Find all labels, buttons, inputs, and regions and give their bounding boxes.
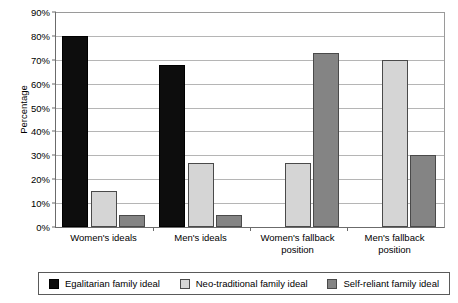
y-tick-mark (52, 107, 56, 108)
bar (188, 163, 214, 228)
y-tick-mark (52, 155, 56, 156)
x-axis-label-line: position (346, 244, 443, 256)
y-tick-mark (52, 12, 56, 13)
legend-swatch-icon (49, 279, 59, 289)
y-tick-mark (52, 59, 56, 60)
y-tick-label: 30% (8, 150, 50, 161)
bar (410, 155, 436, 227)
x-axis-label: Men's fallbackposition (346, 232, 443, 255)
x-axis-label-line: position (249, 244, 346, 256)
y-tick-label: 70% (8, 54, 50, 65)
y-tick-label: 10% (8, 198, 50, 209)
plot-inner: 90%80%70%60%50%40%30%20%10%0% (56, 12, 444, 227)
legend-item: Egalitarian family ideal (49, 278, 160, 289)
legend-label: Self-reliant family ideal (343, 278, 439, 289)
x-tick-mark (250, 227, 251, 231)
bar (62, 36, 88, 227)
bar (159, 65, 185, 227)
x-tick-mark (347, 227, 348, 231)
chart-legend: Egalitarian family idealNeo-traditional … (38, 272, 450, 295)
y-tick-label: 80% (8, 30, 50, 41)
legend-swatch-icon (180, 279, 190, 289)
y-tick-label: 50% (8, 102, 50, 113)
x-axis-label-line: Women's fallback (249, 232, 346, 244)
x-axis-label: Men's ideals (152, 232, 249, 244)
gridline (56, 36, 444, 37)
y-tick-mark (52, 203, 56, 204)
y-tick-mark (52, 83, 56, 84)
legend-item: Self-reliant family ideal (327, 278, 439, 289)
bar (313, 53, 339, 227)
gridline (56, 12, 444, 13)
legend-swatch-icon (327, 279, 337, 289)
y-tick-mark (52, 179, 56, 180)
bar (216, 215, 242, 227)
y-tick-label: 60% (8, 78, 50, 89)
x-axis-label-line: Men's fallback (346, 232, 443, 244)
bar (91, 191, 117, 227)
bar (382, 60, 408, 227)
x-axis-label: Women's ideals (55, 232, 152, 244)
legend-label: Egalitarian family ideal (65, 278, 160, 289)
y-tick-label: 0% (8, 222, 50, 233)
bar (285, 163, 311, 228)
bar (119, 215, 145, 227)
y-tick-label: 90% (8, 7, 50, 18)
x-axis-label-line: Women's ideals (55, 232, 152, 244)
legend-label: Neo-traditional family ideal (196, 278, 308, 289)
x-axis-label: Women's fallbackposition (249, 232, 346, 255)
y-tick-mark (52, 35, 56, 36)
y-tick-label: 20% (8, 174, 50, 185)
y-tick-label: 40% (8, 126, 50, 137)
bar-chart: Percentage 90%80%70%60%50%40%30%20%10%0%… (0, 0, 458, 303)
x-axis-label-line: Men's ideals (152, 232, 249, 244)
plot-area: 90%80%70%60%50%40%30%20%10%0% (55, 12, 445, 228)
y-tick-mark (52, 227, 56, 228)
x-tick-mark (153, 227, 154, 231)
legend-item: Neo-traditional family ideal (180, 278, 308, 289)
y-tick-mark (52, 131, 56, 132)
